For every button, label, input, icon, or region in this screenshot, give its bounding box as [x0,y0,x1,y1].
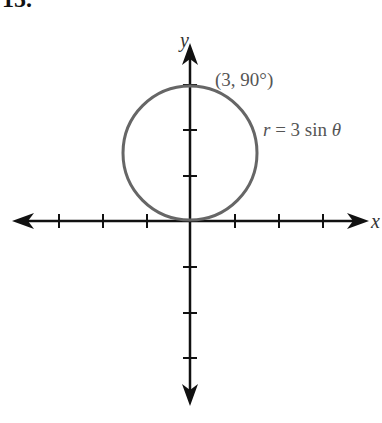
y-axis [182,43,198,406]
equation-theta: θ [332,119,341,140]
equation-middle: = 3 sin [270,119,331,140]
x-axis-label: x [370,210,380,232]
point-label: (3, 90°) [215,69,273,91]
equation-label: r = 3 sin θ [263,119,341,140]
polar-plot: y x (3, 90°) r = 3 sin θ [0,0,382,423]
y-axis-label: y [178,29,189,52]
